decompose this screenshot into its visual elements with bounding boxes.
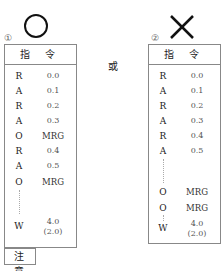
example-number-2: ② <box>151 33 159 43</box>
table-header: 指 令 <box>5 45 76 65</box>
instruction-table-wrong: 指 令 R0.0 A0.1 R0.2 A0.3 R0.4 A0.5 OMRG O… <box>148 44 221 244</box>
table-row: OMRG <box>5 175 76 189</box>
instruction-table-correct: 指 令 R0.0 A0.1 R0.2 A0.3 OMRG R0.4 A0.5 O… <box>4 44 77 248</box>
table-row: R0.4 <box>5 144 76 158</box>
table-row: W 4.0 (2.0) <box>149 217 220 241</box>
table-row: OMRG <box>5 129 76 143</box>
table-row: W 4.0 (2.0) <box>5 215 76 239</box>
table-row: A0.1 <box>5 84 76 98</box>
table-row: R0.4 <box>149 129 220 143</box>
continuation-line <box>19 190 20 214</box>
table-row: A0.3 <box>149 114 220 128</box>
continuation-line <box>163 159 164 183</box>
table-row: R0.2 <box>5 99 76 113</box>
table-row: OMRG <box>149 201 220 215</box>
table-row: A0.5 <box>149 144 220 158</box>
or-label: 或 <box>108 58 118 73</box>
table-row: A0.5 <box>5 159 76 173</box>
table-row: R0.0 <box>149 69 220 83</box>
table-header: 指 令 <box>149 45 220 65</box>
note-label: 注 意 <box>4 248 36 265</box>
example-number-1: ① <box>4 33 12 43</box>
table-row: A0.1 <box>149 84 220 98</box>
cross-wrong-icon <box>167 12 197 42</box>
table-row: R0.0 <box>5 69 76 83</box>
table-row: R0.2 <box>149 99 220 113</box>
table-row: A0.3 <box>5 114 76 128</box>
table-row: OMRG <box>149 185 220 199</box>
circle-correct-icon <box>24 14 48 38</box>
